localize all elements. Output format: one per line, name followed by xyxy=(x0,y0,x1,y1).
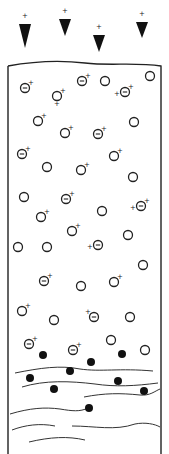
plus-charge-icon: + xyxy=(32,335,38,343)
plus-charge-icon: + xyxy=(117,273,123,281)
sediment-layer-line xyxy=(72,423,160,428)
neutral-particle xyxy=(43,163,52,172)
plus-charge-icon: + xyxy=(75,222,81,230)
plus-charge-icon: + xyxy=(76,341,82,349)
plus-charge-icon: + xyxy=(144,197,150,205)
settling-column-diagram: ++++ ++++++++++++++++++++++++ xyxy=(0,0,169,454)
plus-charge-icon: + xyxy=(60,87,66,95)
plus-charge-icon: + xyxy=(84,161,90,169)
solid-particle xyxy=(87,358,95,366)
neutral-particle: + xyxy=(34,112,48,126)
charged-particles: ++++++++++++++++++++++++ xyxy=(14,72,155,355)
neutral-particle: + xyxy=(110,273,124,287)
neutral-particle: ++ xyxy=(53,87,67,108)
neutral-particle xyxy=(50,316,59,325)
plus-charge-icon: + xyxy=(117,147,123,155)
settled-solid-particles xyxy=(26,350,148,412)
plus-charge-icon: + xyxy=(96,23,102,31)
solid-particle xyxy=(50,385,58,393)
downward-arrow-icon: + xyxy=(19,12,31,48)
plus-charge-icon: + xyxy=(85,72,91,80)
neutral-particle xyxy=(124,231,133,240)
neutral-particle xyxy=(107,336,116,345)
plus-charge-icon: + xyxy=(68,124,74,132)
solid-particle xyxy=(85,404,93,412)
downward-arrow-icon: + xyxy=(93,23,105,52)
negative-particle: + xyxy=(18,145,32,159)
plus-charge-icon: + xyxy=(22,12,28,20)
solid-particle xyxy=(140,387,148,395)
negative-particle: + xyxy=(85,308,98,322)
negative-particle: ++ xyxy=(130,197,150,212)
plus-charge-icon: + xyxy=(87,243,93,251)
sediment-layer-line xyxy=(84,389,160,397)
neutral-particle xyxy=(130,118,139,127)
negative-particle: + xyxy=(21,79,35,93)
neutral-particle: + xyxy=(37,208,51,222)
incoming-arrows: ++++ xyxy=(19,7,148,52)
neutral-particle xyxy=(101,77,110,86)
negative-particle: + xyxy=(25,335,39,349)
plus-charge-icon: + xyxy=(101,125,107,133)
negative-particle: + xyxy=(62,190,76,204)
neutral-particle xyxy=(43,243,52,252)
neutral-particle xyxy=(77,282,86,291)
neutral-particle xyxy=(14,243,23,252)
neutral-particle xyxy=(98,207,107,216)
negative-particle: + xyxy=(78,72,92,86)
neutral-particle xyxy=(139,261,148,270)
solid-particle xyxy=(39,351,47,359)
solid-particle xyxy=(66,367,74,375)
solid-particle xyxy=(26,374,34,382)
plus-charge-icon: + xyxy=(47,272,53,280)
plus-charge-icon: + xyxy=(41,112,47,120)
plus-charge-icon: + xyxy=(139,10,145,18)
sediment-layer-line xyxy=(12,425,55,430)
sediment-layer-line xyxy=(15,367,153,373)
plus-charge-icon: + xyxy=(69,190,75,198)
plus-charge-icon: + xyxy=(25,302,31,310)
negative-particle: + xyxy=(40,272,54,286)
neutral-particle xyxy=(141,346,150,355)
plus-charge-icon: + xyxy=(28,79,34,87)
downward-arrow-icon: + xyxy=(136,10,148,38)
sediment-layer-line xyxy=(29,438,85,442)
plus-charge-icon: + xyxy=(130,204,136,212)
plus-charge-icon: + xyxy=(114,90,120,98)
downward-arrow-icon: + xyxy=(59,7,71,36)
neutral-particle: + xyxy=(110,147,124,161)
plus-charge-icon: + xyxy=(85,308,91,316)
sediment-layer-line xyxy=(10,408,88,414)
neutral-particle xyxy=(129,173,138,182)
neutral-particle: + xyxy=(77,161,91,175)
neutral-particle xyxy=(20,193,29,202)
sediment-layer-line xyxy=(22,382,158,387)
negative-particle: ++ xyxy=(114,83,134,98)
plus-charge-icon: + xyxy=(44,208,50,216)
neutral-particle xyxy=(146,72,155,81)
negative-particle: + xyxy=(69,341,83,355)
negative-particle: + xyxy=(94,125,108,139)
plus-charge-icon: + xyxy=(25,145,31,153)
plus-charge-icon: + xyxy=(62,7,68,15)
negative-particle: + xyxy=(87,241,102,252)
solid-particle xyxy=(114,377,122,385)
plus-charge-icon: + xyxy=(128,83,134,91)
neutral-particle: + xyxy=(68,222,82,236)
neutral-particle: + xyxy=(61,124,75,138)
plus-charge-icon: + xyxy=(54,100,60,108)
neutral-particle: + xyxy=(18,302,32,316)
solid-particle xyxy=(118,350,126,358)
neutral-particle xyxy=(126,313,135,322)
